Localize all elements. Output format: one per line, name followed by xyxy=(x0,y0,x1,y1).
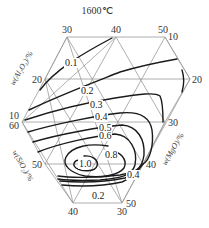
contour-label-0.2: 0.2 xyxy=(81,85,94,96)
tick-right-20: 20 xyxy=(192,74,202,85)
contour-label-0.1: 0.1 xyxy=(65,57,78,68)
contour-label-0.4-lower: 0.4 xyxy=(127,169,140,180)
chart-title: 1600℃ xyxy=(82,5,113,16)
tick-top-30: 30 xyxy=(62,24,72,35)
tick-right-50: 50 xyxy=(126,198,136,209)
contour-right-edge xyxy=(182,70,184,92)
tick-top-40: 40 xyxy=(111,24,121,35)
tick-left-50: 50 xyxy=(32,159,42,170)
contour-label-0.8: 0.8 xyxy=(105,149,118,160)
axis-label-al2o3: w(Al₂O₃)/% xyxy=(8,49,35,87)
contour-label-0.4: 0.4 xyxy=(95,111,108,122)
tick-top-50: 50 xyxy=(158,24,168,35)
tick-left-60: 60 xyxy=(9,120,19,131)
tick-left-20: 20 xyxy=(32,74,42,85)
contour-label-1.0: 1.0 xyxy=(79,158,92,169)
tick-top-right-10: 10 xyxy=(168,31,178,42)
contour-label-0.3: 0.3 xyxy=(90,99,103,110)
ternary-diagram: 1600℃ xyxy=(0,0,209,228)
contour-label-0.2-lower: 0.2 xyxy=(92,190,105,201)
tick-bottom-40: 40 xyxy=(68,206,78,217)
tick-right-40: 40 xyxy=(146,159,156,170)
tick-bottom-30: 30 xyxy=(117,206,127,217)
tick-right-30: 30 xyxy=(168,117,178,128)
contour-label-0.6: 0.6 xyxy=(99,130,112,141)
axis-label-mgo: w(MgO)/% xyxy=(160,131,186,167)
